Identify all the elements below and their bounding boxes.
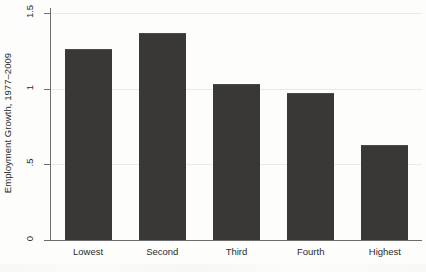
bar-second <box>139 33 186 240</box>
y-tick-label-1point5: 1.5 <box>24 1 35 23</box>
y-axis-title: Employment Growth, 1977–2009 <box>0 3 16 243</box>
y-tick-label-0point5: .5 <box>24 152 35 174</box>
x-label-second: Second <box>122 246 202 257</box>
x-axis-line <box>50 240 422 241</box>
bar-highest <box>361 145 408 240</box>
bar-fourth <box>287 93 334 240</box>
bar-chart: Employment Growth, 1977–2009 0 .5 1 1.5 … <box>0 0 426 272</box>
y-tick-label-1: 1 <box>24 76 35 98</box>
x-label-third: Third <box>197 246 277 257</box>
scan-artifact <box>0 264 426 272</box>
x-label-lowest: Lowest <box>48 246 128 257</box>
x-label-highest: Highest <box>345 246 425 257</box>
x-label-fourth: Fourth <box>271 246 351 257</box>
y-tick-label-0: 0 <box>24 228 35 250</box>
bar-third <box>213 84 260 240</box>
plot-area <box>51 8 422 240</box>
bar-lowest <box>65 49 112 240</box>
